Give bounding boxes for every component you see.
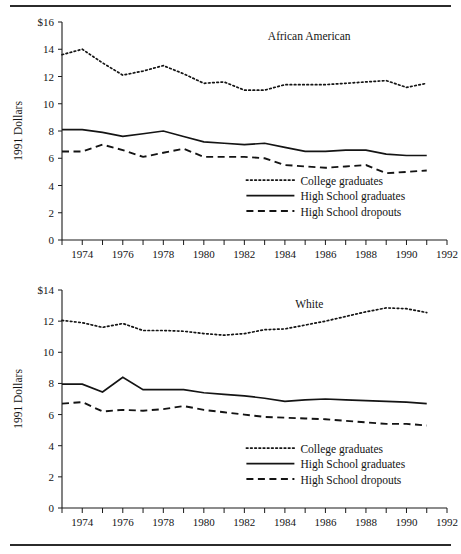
series-line-high-school-graduates [62,130,427,156]
series-line-high-school-graduates [62,377,427,403]
x-axis-tick-label: 1986 [314,248,337,260]
y-axis-tick-label: 10 [43,346,55,358]
legend-label-college-graduates: College graduates [300,175,383,188]
y-axis-title: 1991 Dollars [12,369,24,429]
legend-label-high-school-graduates: High School graduates [300,190,405,203]
y-axis-tick-label: $14 [38,284,55,296]
y-axis-tick-label: 10 [43,98,55,110]
bottom-horizontal-rule [10,544,451,546]
figure-page: 02468101214$1619741976197819801982198419… [0,0,461,554]
x-axis-tick-label: 1976 [112,248,135,260]
x-axis-tick-label: 1992 [436,248,458,260]
legend-label-high-school-dropouts: High School dropouts [300,206,401,219]
top-horizontal-rule [10,5,451,7]
y-axis-tick-label: 4 [49,180,55,192]
y-axis-tick-label: 14 [43,43,55,55]
y-axis-tick-label: 8 [49,125,55,137]
y-axis-tick-label: 2 [49,471,55,483]
series-line-high-school-dropouts [62,402,427,425]
y-axis-title: 1991 Dollars [12,101,24,161]
y-axis-tick-label: 2 [49,207,55,219]
x-axis-tick-label: 1988 [355,516,378,528]
x-axis-tick-label: 1974 [71,248,94,260]
x-axis-tick-label: 1990 [395,248,418,260]
y-axis-tick-label: 0 [49,502,55,514]
y-axis-tick-label: 12 [43,71,54,83]
x-axis-tick-label: 1980 [193,248,216,260]
y-axis-tick-label: 8 [49,377,55,389]
y-axis-tick-label: 6 [49,409,55,421]
y-axis-tick-label: $16 [38,16,55,28]
chart-title: White [295,298,323,310]
x-axis-tick-label: 1982 [233,516,255,528]
x-axis-tick-label: 1978 [152,248,175,260]
series-line-high-school-dropouts [62,145,427,174]
x-axis-tick-label: 1974 [71,516,94,528]
chart-svg-african-american: 02468101214$1619741976197819801982198419… [0,12,461,274]
y-axis-tick-label: 6 [49,152,55,164]
legend-label-college-graduates: College graduates [300,443,383,456]
y-axis-tick-label: 12 [43,315,54,327]
y-axis-tick-label: 4 [49,440,55,452]
legend-label-high-school-dropouts: High School dropouts [300,474,401,487]
x-axis-tick-label: 1984 [274,248,297,260]
x-axis-tick-label: 1976 [112,516,135,528]
x-axis-tick-label: 1986 [314,516,337,528]
series-line-college-graduates [62,49,427,90]
x-axis-tick-label: 1988 [355,248,378,260]
legend-label-high-school-graduates: High School graduates [300,458,405,471]
x-axis-tick-label: 1984 [274,516,297,528]
x-axis-tick-label: 1990 [395,516,418,528]
y-axis-tick-label: 0 [49,234,55,246]
chart-panel-white: 024681012$141974197619781980198219841986… [0,280,461,542]
chart-panel-african-american: 02468101214$1619741976197819801982198419… [0,12,461,274]
chart-svg-white: 024681012$141974197619781980198219841986… [0,280,461,542]
x-axis-tick-label: 1982 [233,248,255,260]
x-axis-tick-label: 1992 [436,516,458,528]
series-line-college-graduates [62,308,427,335]
x-axis-tick-label: 1980 [193,516,216,528]
chart-title: African American [268,30,351,42]
x-axis-tick-label: 1978 [152,516,175,528]
